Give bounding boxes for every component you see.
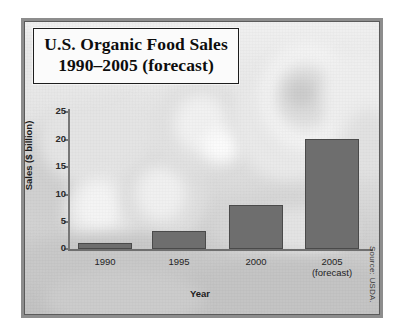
x-tick-label-2000: 2000 <box>226 256 286 267</box>
x-tick-sublabel: (forecast) <box>302 267 362 278</box>
bar-2005 <box>305 139 359 249</box>
x-tick-label-1990: 1990 <box>75 256 135 267</box>
x-axis-line <box>68 249 373 251</box>
y-axis-title: Sales ($ billion) <box>23 111 34 201</box>
chart-title-line-1: U.S. Organic Food Sales <box>42 34 230 55</box>
y-tick-label-wrap: 5 <box>40 216 66 226</box>
y-tick-label-wrap: 20 <box>40 134 66 144</box>
y-tick-label: 15 <box>44 161 66 171</box>
x-tick-year: 2005 <box>321 256 342 267</box>
x-tick-label-1995: 1995 <box>149 256 209 267</box>
y-axis-line <box>68 109 70 251</box>
y-tick-label: 25 <box>44 106 66 116</box>
y-tick-label-wrap: 15 <box>40 161 66 171</box>
x-tick-label-2005: 2005 (forecast) <box>302 256 362 278</box>
y-tick-label-wrap: 10 <box>40 189 66 199</box>
x-tick-year: 1990 <box>94 256 115 267</box>
y-tick-label: 10 <box>44 189 66 199</box>
chart-title-line-2: 1990–2005 (forecast) <box>42 55 230 76</box>
bar-2000 <box>229 205 283 249</box>
bar-1995 <box>152 231 206 249</box>
bar-1990 <box>78 243 132 249</box>
x-tick-year: 2000 <box>245 256 266 267</box>
y-tick-label: 5 <box>44 216 66 226</box>
chart-figure: 25 20 15 10 5 0 Sales ($ billion) 1990 1… <box>0 0 414 331</box>
x-axis-title: Year <box>150 288 250 299</box>
source-credit: Source: USDA. <box>368 246 377 303</box>
y-tick-label-wrap: 0 <box>40 243 66 253</box>
y-tick-label: 0 <box>44 243 66 253</box>
y-tick-label: 20 <box>44 134 66 144</box>
chart-title-plate: U.S. Organic Food Sales 1990–2005 (forec… <box>33 28 239 84</box>
y-tick-label-wrap: 25 <box>40 106 66 116</box>
x-tick-year: 1995 <box>168 256 189 267</box>
